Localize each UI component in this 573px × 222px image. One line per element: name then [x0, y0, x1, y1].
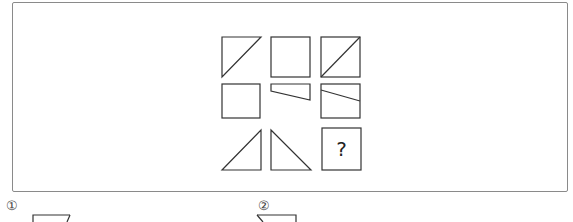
- choice-2-label[interactable]: ②: [258, 198, 270, 213]
- cell-r3c1-triangle: [222, 130, 261, 170]
- cell-r2c2-trapezoid: [271, 84, 310, 100]
- choice-1-label[interactable]: ①: [6, 198, 18, 213]
- cell-r1c3-square-diagonal: [321, 37, 360, 77]
- question-mark: ?: [322, 128, 361, 170]
- cell-r2c1-square: [222, 84, 260, 118]
- cell-r1c1-right-triangle: [222, 37, 261, 77]
- cell-r1c2-square: [271, 37, 310, 77]
- cell-r2c3-square-slanted-line: [321, 84, 360, 118]
- choice-2-shape[interactable]: [257, 215, 296, 222]
- choice-1-shape[interactable]: [33, 215, 70, 222]
- cell-r3c2-triangle: [271, 130, 311, 170]
- puzzle-grid: [0, 0, 573, 222]
